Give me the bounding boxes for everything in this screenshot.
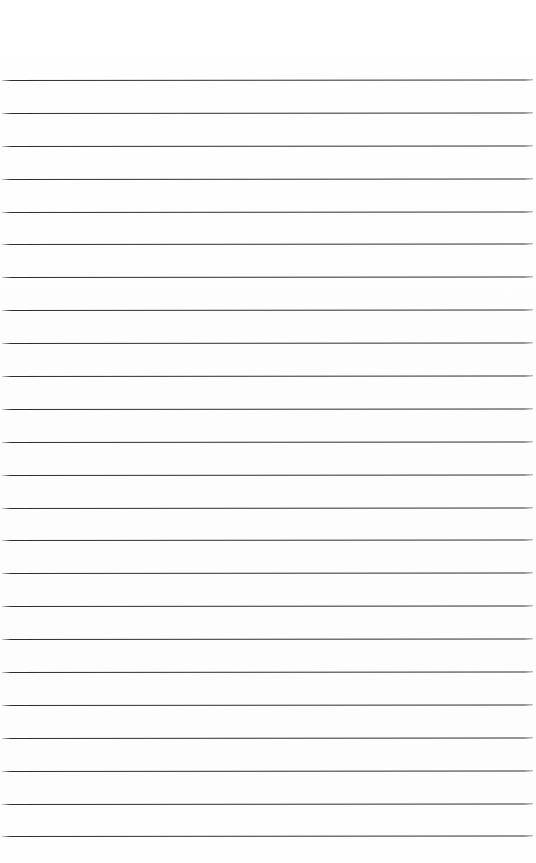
ruled-line <box>2 737 533 738</box>
ruled-line <box>2 803 533 804</box>
ruled-line <box>2 573 533 574</box>
ruled-line <box>2 606 533 607</box>
ruled-line <box>2 277 533 278</box>
ruled-line <box>2 408 533 409</box>
ruled-line <box>2 244 533 245</box>
ruled-line <box>2 112 533 113</box>
ruled-line <box>2 343 533 344</box>
ruled-line <box>2 145 533 146</box>
lined-paper-page <box>0 0 536 863</box>
ruled-line <box>2 540 533 541</box>
ruled-line <box>2 770 533 771</box>
ruled-line <box>2 80 533 81</box>
ruled-line <box>2 639 533 640</box>
ruled-line <box>2 704 533 705</box>
ruled-line <box>2 310 533 311</box>
ruled-writing-area <box>0 0 536 863</box>
ruled-line <box>2 507 533 508</box>
ruled-line <box>2 671 533 672</box>
ruled-line <box>2 178 533 179</box>
ruled-line <box>2 474 533 475</box>
ruled-line <box>2 441 533 442</box>
ruled-line <box>2 836 533 837</box>
ruled-line <box>2 211 533 212</box>
ruled-line <box>2 376 533 377</box>
